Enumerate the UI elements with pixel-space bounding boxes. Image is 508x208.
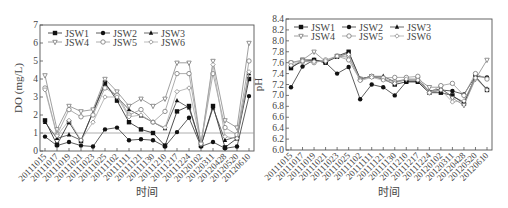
- legend-label-jsw6: JSW6: [161, 37, 185, 48]
- marker-circle-icon: [223, 146, 227, 150]
- marker-circle-icon: [103, 127, 107, 131]
- marker-square-icon: [151, 131, 155, 135]
- y-axis-label: DO (mg/L): [12, 63, 25, 113]
- y-tick-label: 7.4: [272, 69, 284, 79]
- marker-triangle-down-icon: [43, 74, 47, 78]
- marker-open-circle-icon: [485, 77, 489, 81]
- marker-open-circle-icon: [103, 86, 107, 90]
- legend-label-jsw5: JSW5: [359, 31, 383, 42]
- y-tick-label: 5: [33, 56, 38, 66]
- marker-triangle-down-icon: [175, 61, 179, 65]
- marker-circle-icon: [381, 85, 385, 89]
- series-jsw3: [289, 50, 489, 104]
- marker-open-circle-icon: [473, 71, 477, 75]
- y-tick-label: 7: [33, 20, 38, 30]
- marker-circle-icon: [163, 144, 167, 148]
- marker-circle-icon: [393, 93, 397, 97]
- marker-diamond-icon: [149, 40, 153, 44]
- marker-circle-icon: [450, 89, 454, 93]
- marker-open-circle-icon: [450, 81, 454, 85]
- marker-open-circle-icon: [247, 59, 251, 63]
- marker-diamond-icon: [103, 95, 107, 99]
- y-tick-label: 6.8: [272, 101, 284, 111]
- y-tick-label: 6.6: [272, 112, 284, 122]
- marker-triangle-down-icon: [139, 97, 143, 101]
- legend-label-jsw4: JSW4: [65, 37, 89, 48]
- marker-triangle-icon: [175, 98, 179, 102]
- y-tick-label: 6.0: [272, 145, 284, 155]
- legend: JSW1JSW2JSW3JSW4JSW5JSW6: [48, 28, 185, 48]
- marker-open-circle-icon: [67, 107, 71, 111]
- y-tick-label: 8.4: [272, 14, 284, 24]
- y-tick-label: 7.6: [272, 58, 284, 68]
- series-jsw6: [289, 52, 489, 104]
- series-jsw2: [289, 58, 489, 102]
- marker-circle-icon: [235, 144, 239, 148]
- marker-open-circle-icon: [79, 115, 83, 119]
- y-axis-label: pH: [252, 78, 264, 92]
- marker-circle-icon: [101, 31, 105, 35]
- marker-circle-icon: [55, 143, 59, 147]
- x-axis-label: 时间: [136, 186, 158, 198]
- legend: JSW1JSW2JSW3JSW4JSW5JSW6: [294, 22, 431, 42]
- marker-square-icon: [175, 109, 179, 113]
- y-tick-label: 6: [33, 38, 38, 48]
- legend-label-jsw4: JSW4: [311, 31, 335, 42]
- y-tick-label: 7.2: [272, 80, 284, 90]
- marker-triangle-down-icon: [79, 110, 83, 114]
- marker-open-circle-icon: [101, 40, 105, 44]
- marker-open-circle-icon: [187, 71, 191, 75]
- marker-triangle-icon: [149, 30, 153, 34]
- marker-square-icon: [299, 25, 303, 29]
- marker-circle-icon: [211, 140, 215, 144]
- marker-circle-icon: [127, 138, 131, 142]
- marker-circle-icon: [187, 116, 191, 120]
- marker-circle-icon: [151, 138, 155, 142]
- legend-label-jsw6: JSW6: [407, 31, 431, 42]
- marker-square-icon: [139, 127, 143, 131]
- marker-triangle-down-icon: [187, 61, 191, 65]
- marker-circle-icon: [370, 82, 374, 86]
- x-axis-label: 时间: [378, 186, 400, 198]
- marker-diamond-icon: [175, 89, 179, 93]
- marker-triangle-down-icon: [53, 40, 57, 44]
- legend-label-jsw5: JSW5: [113, 37, 137, 48]
- marker-circle-icon: [289, 85, 293, 89]
- marker-circle-icon: [67, 140, 71, 144]
- y-tick-label: 3: [33, 92, 38, 102]
- marker-diamond-icon: [187, 86, 191, 90]
- marker-circle-icon: [139, 137, 143, 141]
- series-jsw1: [43, 77, 251, 150]
- y-tick-label: 4: [33, 74, 38, 84]
- marker-open-circle-icon: [393, 75, 397, 79]
- marker-triangle-down-icon: [163, 97, 167, 101]
- marker-circle-icon: [347, 25, 351, 29]
- marker-circle-icon: [335, 71, 339, 75]
- marker-square-icon: [127, 120, 131, 124]
- y-tick-label: 8.0: [272, 36, 284, 46]
- figure: 0123456720111015201110172011101920111021…: [0, 0, 508, 208]
- marker-open-circle-icon: [91, 113, 95, 117]
- y-tick-label: 6.2: [272, 134, 284, 144]
- marker-diamond-icon: [91, 120, 95, 124]
- marker-triangle-down-icon: [312, 50, 316, 54]
- marker-circle-icon: [115, 125, 119, 129]
- marker-triangle-down-icon: [299, 34, 303, 38]
- charts-canvas: 0123456720111015201110172011101920111021…: [0, 0, 508, 208]
- marker-open-circle-icon: [175, 71, 179, 75]
- marker-open-circle-icon: [347, 34, 351, 38]
- y-tick-label: 1: [33, 128, 38, 138]
- marker-diamond-icon: [395, 34, 399, 38]
- ph-chart: 6.06.26.46.66.87.07.27.47.67.88.08.28.42…: [252, 14, 492, 198]
- marker-circle-icon: [247, 94, 251, 98]
- marker-circle-icon: [91, 144, 95, 148]
- marker-circle-icon: [358, 97, 362, 101]
- marker-open-circle-icon: [139, 107, 143, 111]
- marker-circle-icon: [43, 134, 47, 138]
- marker-circle-icon: [346, 65, 350, 69]
- marker-square-icon: [53, 31, 57, 35]
- y-tick-label: 6.4: [272, 123, 284, 133]
- marker-triangle-icon: [395, 24, 399, 28]
- series-jsw6: [43, 62, 251, 146]
- do-chart: 0123456720111015201110172011101920111021…: [12, 20, 254, 198]
